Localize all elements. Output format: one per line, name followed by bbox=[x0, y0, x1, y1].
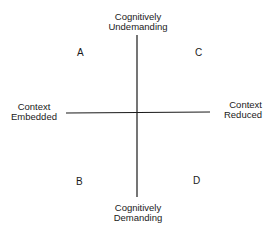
bottom-axis-label-line2: Demanding bbox=[107, 213, 169, 223]
quadrant-b-label: B bbox=[76, 177, 83, 187]
left-axis-label-line2: Embedded bbox=[6, 112, 62, 122]
bottom-axis-label: Cognitively Demanding bbox=[107, 203, 169, 223]
left-axis-label: Context Embedded bbox=[6, 102, 62, 122]
top-axis-label-line2: Undemanding bbox=[107, 22, 169, 32]
quadrant-c-label: C bbox=[195, 48, 202, 58]
quadrant-d-label: D bbox=[193, 176, 200, 186]
right-axis-label-line2: Reduced bbox=[212, 110, 262, 120]
top-axis-label: Cognitively Undemanding bbox=[107, 12, 169, 32]
right-axis-label: Context Reduced bbox=[212, 100, 262, 120]
horizontal-axis bbox=[66, 112, 210, 113]
quadrant-a-label: A bbox=[77, 48, 84, 58]
